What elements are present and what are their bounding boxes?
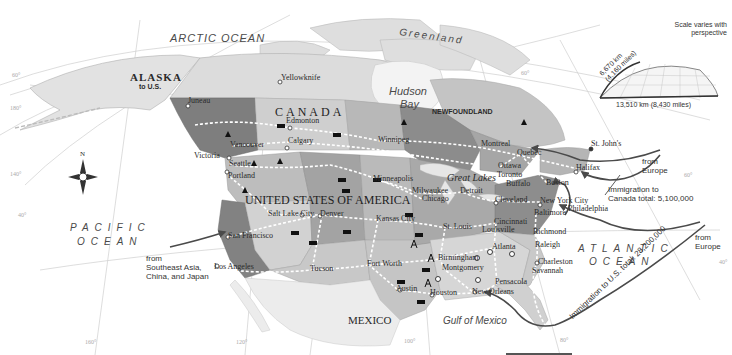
city-label: Salt Lake City: [268, 210, 314, 218]
arctic-ocean-label: ARCTIC OCEAN: [170, 33, 265, 44]
city-label: Quebec: [517, 149, 541, 157]
city-label: Kansas City: [376, 215, 415, 223]
graticule-label: 100°: [404, 338, 415, 344]
city-label: Charleston: [538, 258, 573, 266]
city-label: Pensacola: [495, 278, 527, 286]
city-label: Buffalo: [506, 180, 530, 188]
europe-us-origin-note: from Europe: [695, 233, 721, 251]
alaska-label: ALASKA: [130, 72, 182, 83]
scale-note: Scale varies with perspective: [666, 21, 727, 37]
city-label: Austin: [396, 285, 417, 293]
hudson-bay-label: Hudson: [389, 86, 427, 97]
graticule-label: 140°: [10, 171, 21, 177]
city-label: Yellowknife: [281, 74, 320, 82]
city-label: Portland: [228, 172, 255, 180]
city-label: New Orleans: [472, 288, 514, 296]
city-label: Los Angeles: [214, 263, 254, 271]
city-label: Juneau: [188, 97, 210, 105]
graticule-label: 40°: [719, 259, 727, 265]
graticule-label: 60°: [521, 70, 529, 76]
atlantic-ocean-label: ATLANTIC: [578, 244, 674, 254]
city-label: Halifax: [576, 164, 600, 172]
city-label: Detroit: [460, 187, 483, 195]
alaska-label-2: to U.S.: [139, 83, 161, 90]
british-columbia: [170, 98, 258, 158]
city-label: Ottawa: [498, 162, 521, 170]
city-label: Baltimore: [534, 209, 566, 217]
compass-rose: [68, 159, 98, 195]
scale-width-label: 13,510 km (8,430 miles): [616, 101, 691, 109]
pacific-ocean-label: PACIFIC: [70, 223, 151, 233]
city-label: St. Louis: [443, 223, 472, 231]
city-label: Louisville: [482, 226, 514, 234]
city-label: Vancouver: [230, 141, 264, 149]
pacific-ocean-label-2: OCEAN: [77, 237, 143, 247]
asia-origin-note: from Southeast Asia, China, and Japan: [146, 254, 209, 282]
newfoundland-label: NEWFOUNDLAND: [432, 108, 493, 115]
city-label: Fort Worth: [367, 260, 402, 268]
city-label: Calgary: [288, 137, 313, 145]
city-label: Richmond: [533, 228, 566, 236]
graticule-label: 40°: [18, 212, 26, 218]
graticule-label: 60°: [684, 172, 692, 178]
city-label: Savannah: [532, 267, 563, 275]
city-label: Boston: [546, 179, 569, 187]
city-label: Winnipeg: [378, 136, 409, 144]
graticule-label: 180°: [10, 105, 21, 111]
canada-total-note: Immigration to Canada total: 5,100,000: [608, 185, 693, 203]
graticule-label: 160°: [85, 339, 96, 345]
arrow-asia: [170, 232, 225, 247]
city-label: Montgomery: [442, 264, 484, 272]
compass-north-label: N: [80, 151, 85, 158]
city-label: Montreal: [481, 140, 510, 148]
city-label: Chicago: [422, 195, 449, 203]
city-label: Edmonton: [286, 117, 319, 125]
city-label: Toronto: [497, 171, 522, 179]
city-label: Cleveland: [495, 196, 527, 204]
great-lakes-label: Great Lakes: [447, 173, 496, 183]
city-label: Tucson: [310, 265, 333, 273]
graticule-label: 60°: [12, 72, 20, 78]
usa-label: UNITED STATES OF AMERICA: [245, 194, 410, 206]
europe-canada-origin-note: from Europe: [642, 157, 668, 175]
mexico-label: MEXICO: [348, 315, 391, 326]
graticule-label: 80°: [560, 337, 568, 343]
city-label: Seattle: [229, 160, 251, 168]
city-label: Denver: [320, 210, 344, 218]
city-label: St. John's: [591, 140, 621, 148]
hudson-bay-label-2: Bay: [400, 99, 419, 110]
city-label: Birmingham: [438, 254, 478, 262]
graticule-label: 120°: [236, 339, 247, 345]
city-label: Victoria: [194, 152, 220, 160]
city-label: Philadelphia: [568, 205, 608, 213]
alaska: [20, 55, 200, 130]
city-label: Minneapolis: [373, 175, 413, 183]
city-label: Raleigh: [535, 241, 560, 249]
gulf-of-mexico-label: Gulf of Mexico: [443, 316, 507, 326]
city-label: Atlanta: [492, 243, 516, 251]
city-label: Houston: [430, 289, 457, 297]
city-label: San Francisco: [228, 232, 273, 240]
